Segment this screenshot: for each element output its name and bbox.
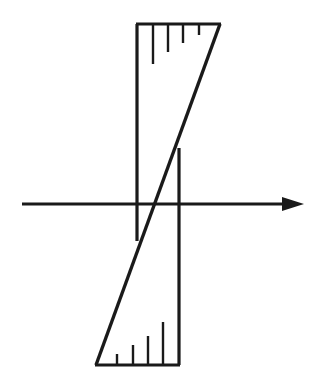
hysteresis-diagram — [0, 0, 316, 387]
figure-canvas: Hand-drawn hysteresis / sign-function sk… — [0, 0, 316, 387]
